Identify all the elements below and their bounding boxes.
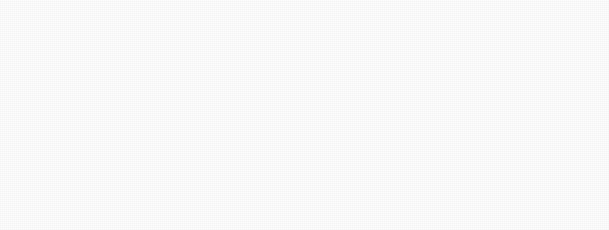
chart-type-100-stacked-bar-3d[interactable] [425,149,481,205]
bar-chart-type-row [22,147,580,209]
pie-3d-icon [113,38,177,102]
exploded-pie-3d-icon [359,38,423,102]
pie-2d-icon [31,38,95,102]
pie-chart-type-row [22,35,580,105]
chart-type-pie-3d[interactable] [112,37,178,103]
chart-type-clustered-bar[interactable] [30,149,86,205]
chart-type-exploded-pie-3d[interactable] [358,37,424,103]
chart-type-bar-of-pie[interactable] [440,37,506,103]
stacked-bar-3d-icon [347,150,401,204]
hundred-stacked-bar-3d-icon [426,150,480,204]
clustered-bar-icon [31,150,85,204]
chart-type-stacked-bar-3d[interactable] [346,149,402,205]
chart-type-gallery: Pie [22,4,580,214]
chart-type-pie-2d[interactable] [30,37,96,103]
tooltip: Exploded pie in 3-D [356,101,491,128]
chart-type-exploded-pie[interactable] [276,37,342,103]
chart-type-clustered-bar-3d[interactable] [267,149,323,205]
chart-type-pie-of-pie[interactable] [194,37,260,103]
group-header-bar: Bar [22,117,580,142]
chart-type-100-stacked-bar[interactable] [188,149,244,205]
hundred-stacked-bar-icon [189,150,243,204]
horizontal-cylinder-icon [505,150,559,204]
group-label-pie: Pie [33,7,53,22]
bar-of-pie-icon [441,38,505,102]
exploded-pie-icon [277,38,341,102]
group-header-pie: Pie [22,4,580,29]
tooltip-text: Exploded pie in 3-D [366,107,481,122]
pie-of-pie-icon [195,38,259,102]
group-label-bar: Bar [33,120,55,135]
chart-type-clustered-horizontal-cylinder[interactable] [504,149,560,205]
chart-type-stacked-bar[interactable] [109,149,165,205]
clustered-bar-3d-icon [268,150,322,204]
stacked-bar-icon [110,150,164,204]
